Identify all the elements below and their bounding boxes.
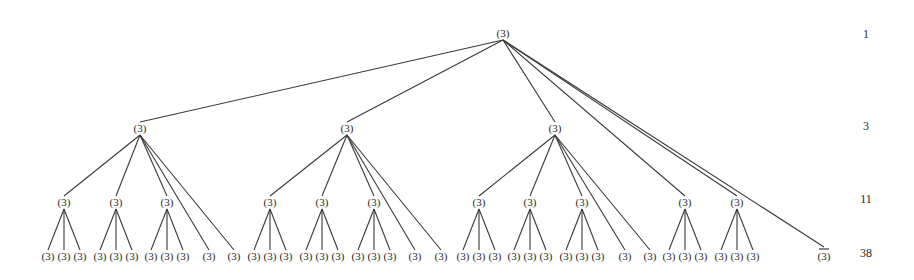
edge-C-to-C1 [479, 135, 555, 196]
leaf-node: (3) [145, 250, 158, 263]
level3-node: (3) [58, 196, 71, 209]
level3-node: (3) [473, 196, 486, 209]
edge-B1-to-leaf-11 [254, 209, 270, 250]
level-count-2: 3 [863, 119, 869, 133]
leaf-node: (3) [592, 250, 605, 263]
level-count-1: 1 [863, 27, 869, 41]
leaf-node: (3) [74, 250, 87, 263]
edge-A2-to-leaf-3 [100, 209, 116, 250]
edge-C-to-C3 [555, 135, 582, 196]
level-count-3: 11 [860, 192, 872, 206]
leaf-node: (3) [58, 250, 71, 263]
edge-B-to-leaf-20 [347, 135, 415, 250]
edge-B2-to-leaf-14 [306, 209, 322, 250]
leaf-node: (3) [524, 250, 537, 263]
edge-B2-to-leaf-16 [322, 209, 338, 250]
edge-root-to-C [503, 40, 555, 122]
edge-C3-to-leaf-30 [582, 209, 598, 250]
leaf-node: (3) [280, 250, 293, 263]
leaf-node: (3) [42, 250, 55, 263]
special-leaf-node: (3) [818, 250, 831, 263]
tree-edges [48, 40, 824, 250]
edge-R1-to-leaf-33 [669, 209, 685, 250]
edge-C2-to-leaf-27 [530, 209, 546, 250]
leaf-node: (3) [747, 250, 760, 263]
leaf-node: (3) [264, 250, 277, 263]
level-count-column: 1 3 11 38 [860, 27, 872, 260]
edge-A1-to-leaf-0 [48, 209, 64, 250]
leaf-node: (3) [177, 250, 190, 263]
leaf-node: (3) [644, 250, 657, 263]
edge-root-to-R1 [503, 40, 685, 196]
leaf-node: (3) [94, 250, 107, 263]
edge-C-to-leaf-32 [555, 135, 650, 250]
leaf-node: (3) [352, 250, 365, 263]
level3-node: (3) [161, 196, 174, 209]
edge-R2-to-leaf-36 [721, 209, 737, 250]
edge-C2-to-leaf-25 [514, 209, 530, 250]
leaf-node: (3) [409, 250, 422, 263]
leaf-node: (3) [715, 250, 728, 263]
leaf-node: (3) [332, 250, 345, 263]
level3-node: (3) [524, 196, 537, 209]
leaf-node: (3) [110, 250, 123, 263]
edge-A-to-leaf-9 [140, 135, 209, 250]
leaf-node: (3) [679, 250, 692, 263]
leaf-node: (3) [316, 250, 329, 263]
tree-diagram: (3)(3)(3)(3)(3)(3)(3)(3)(3)(3)(3)(3)(3)(… [0, 0, 914, 280]
edge-B3-to-leaf-17 [358, 209, 374, 250]
leaf-node: (3) [435, 250, 448, 263]
level3-node: (3) [110, 196, 123, 209]
edge-A3-to-leaf-8 [167, 209, 183, 250]
level3-node: (3) [576, 196, 589, 209]
edge-C-to-C2 [530, 135, 555, 196]
leaf-node: (3) [126, 250, 139, 263]
edge-C1-to-leaf-24 [479, 209, 495, 250]
leaf-node: (3) [731, 250, 744, 263]
leaf-node: (3) [384, 250, 397, 263]
level2-node: (3) [341, 122, 354, 135]
edge-R2-to-leaf-38 [737, 209, 753, 250]
edge-root-to-B [347, 40, 503, 122]
edge-A-to-A3 [140, 135, 167, 196]
edge-B3-to-leaf-19 [374, 209, 390, 250]
edge-A2-to-leaf-5 [116, 209, 132, 250]
level3-node: (3) [368, 196, 381, 209]
edge-A1-to-leaf-2 [64, 209, 80, 250]
edge-A-to-leaf-10 [140, 135, 234, 250]
root-node: (3) [497, 27, 510, 40]
leaf-node: (3) [489, 250, 502, 263]
edge-R1-to-leaf-35 [685, 209, 701, 250]
leaf-node: (3) [663, 250, 676, 263]
leaf-node: (3) [368, 250, 381, 263]
edge-root-to-A [140, 40, 503, 122]
level3-node: (3) [679, 196, 692, 209]
level-count-4: 38 [860, 246, 872, 260]
edge-B-to-B2 [322, 135, 347, 196]
leaf-node: (3) [540, 250, 553, 263]
leaf-node: (3) [457, 250, 470, 263]
level3-node: (3) [264, 196, 277, 209]
leaf-node: (3) [508, 250, 521, 263]
level2-node: (3) [549, 122, 562, 135]
level3-node: (3) [316, 196, 329, 209]
level3-node: (3) [731, 196, 744, 209]
edge-B-to-leaf-21 [347, 135, 441, 250]
leaf-node: (3) [695, 250, 708, 263]
edge-A-to-A1 [64, 135, 140, 196]
leaf-node: (3) [161, 250, 174, 263]
edge-C1-to-leaf-22 [463, 209, 479, 250]
level2-node: (3) [134, 122, 147, 135]
leaf-node: (3) [560, 250, 573, 263]
edge-C-to-leaf-31 [555, 135, 625, 250]
edge-B-to-B3 [347, 135, 374, 196]
edge-C3-to-leaf-28 [566, 209, 582, 250]
edge-A3-to-leaf-6 [151, 209, 167, 250]
leaf-node: (3) [473, 250, 486, 263]
leaf-node: (3) [203, 250, 216, 263]
edge-B1-to-leaf-13 [270, 209, 286, 250]
leaf-node: (3) [619, 250, 632, 263]
edge-B-to-B1 [270, 135, 347, 196]
leaf-node: (3) [300, 250, 313, 263]
leaf-node: (3) [228, 250, 241, 263]
